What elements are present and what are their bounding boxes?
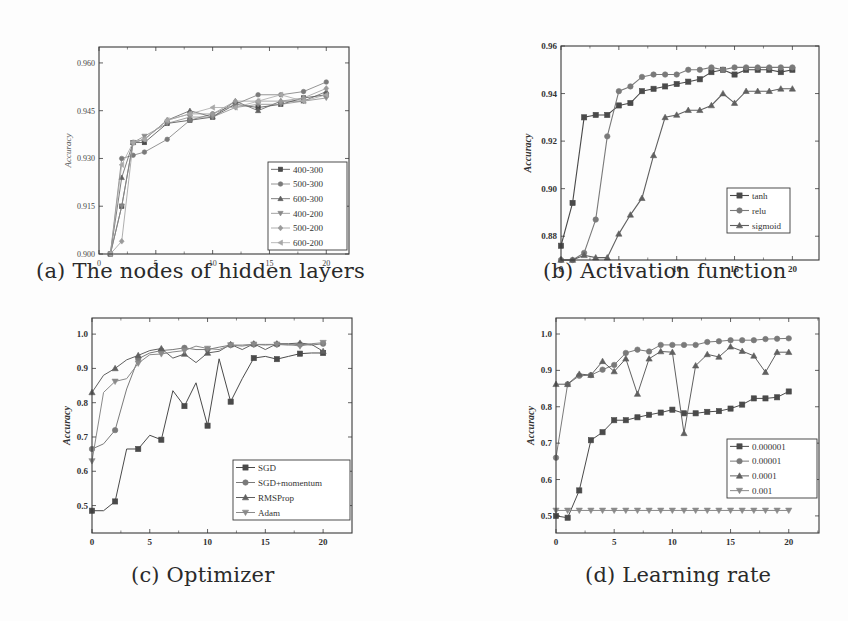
triangle-up-marker — [704, 351, 710, 356]
triangle-up-marker — [681, 430, 687, 435]
circle-marker — [751, 337, 756, 342]
legend-label: 0.001 — [752, 486, 772, 496]
series-markers — [553, 344, 792, 436]
x-tick-label: 5 — [612, 537, 617, 547]
circle-marker — [737, 458, 742, 463]
circle-marker — [774, 336, 779, 341]
circle-marker — [658, 342, 663, 347]
circle-marker — [705, 339, 710, 344]
circle-marker — [670, 342, 675, 347]
y-tick-label: 0.5 — [541, 511, 553, 521]
circle-marker — [716, 339, 721, 344]
square-marker — [612, 418, 617, 423]
caption-d: (d) Learning rate — [585, 563, 771, 587]
triangle-up-marker — [576, 371, 582, 376]
y-tick-label: 0.7 — [541, 438, 553, 448]
x-tick-label: 10 — [668, 537, 678, 547]
triangle-up-marker — [599, 358, 605, 363]
y-axis-label: Accuracy — [525, 406, 536, 446]
square-marker — [623, 418, 628, 423]
circle-marker — [600, 367, 605, 372]
square-marker — [681, 411, 686, 416]
circle-marker — [623, 350, 628, 355]
triangle-up-marker — [634, 391, 640, 396]
plot-frame — [556, 318, 819, 533]
caption-a: (a) The nodes of hidden layers — [36, 259, 365, 283]
legend-label: 0.0001 — [752, 471, 777, 481]
caption-c: (c) Optimizer — [131, 563, 274, 587]
circle-marker — [763, 336, 768, 341]
chart-d-learning-rate: 051015200.50.60.70.80.91.0Accuracy0.0000… — [0, 0, 848, 621]
x-tick-label: 20 — [784, 537, 794, 547]
square-marker — [775, 395, 780, 400]
square-marker — [751, 396, 756, 401]
square-marker — [670, 407, 675, 412]
square-marker — [646, 412, 651, 417]
circle-marker — [786, 336, 791, 341]
square-marker — [763, 396, 768, 401]
square-marker — [635, 415, 640, 420]
square-marker — [728, 406, 733, 411]
x-tick-label: 0 — [554, 537, 559, 547]
circle-marker — [646, 349, 651, 354]
series-line — [556, 347, 789, 434]
triangle-up-marker — [727, 344, 733, 349]
circle-marker — [635, 347, 640, 352]
square-marker — [737, 444, 742, 449]
square-marker — [786, 389, 791, 394]
caption-b: (b) Activation function — [543, 259, 786, 283]
x-tick-label: 15 — [726, 537, 736, 547]
triangle-up-marker — [658, 348, 664, 353]
circle-marker — [693, 342, 698, 347]
legend-label: 0.000001 — [752, 442, 786, 452]
figure: 051015200.9000.9150.9300.9450.960Accurac… — [0, 0, 848, 621]
square-marker — [577, 488, 582, 493]
square-marker — [740, 402, 745, 407]
triangle-up-marker — [646, 356, 652, 361]
square-marker — [693, 411, 698, 416]
square-marker — [565, 515, 570, 520]
y-tick-label: 0.8 — [541, 402, 553, 412]
square-marker — [600, 430, 605, 435]
y-tick-label: 0.9 — [541, 365, 553, 375]
legend: 0.0000010.000010.00010.001 — [727, 439, 817, 498]
square-marker — [705, 409, 710, 414]
circle-marker — [739, 337, 744, 342]
y-tick-label: 0.6 — [541, 475, 553, 485]
square-marker — [658, 410, 663, 415]
circle-marker — [681, 342, 686, 347]
square-marker — [716, 409, 721, 414]
circle-marker — [611, 362, 616, 367]
triangle-up-marker — [623, 356, 629, 361]
square-marker — [588, 438, 593, 443]
chart-d: 051015200.50.60.70.80.91.0Accuracy0.0000… — [525, 318, 819, 547]
y-tick-label: 1.0 — [541, 329, 553, 339]
circle-marker — [728, 337, 733, 342]
legend-label: 0.00001 — [752, 456, 781, 466]
